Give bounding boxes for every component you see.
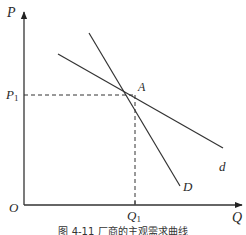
subjective-demand-curve-d <box>58 54 223 148</box>
market-share-demand-curve-D <box>89 33 180 186</box>
equilibrium-point-a-label: A <box>138 81 145 93</box>
price-p1-label: P1 <box>6 88 18 103</box>
quantity-q1-main: Q <box>127 208 136 223</box>
x-axis-label: Q <box>232 211 242 225</box>
figure-caption: 图 4-11 厂商的主观需求曲线 <box>0 226 246 235</box>
y-axis-label: P <box>7 6 16 20</box>
origin-label: O <box>9 201 18 214</box>
quantity-q1-label: Q1 <box>127 209 141 224</box>
curve-D-label: D <box>183 180 192 193</box>
demand-curve-diagram: P Q O P1 Q1 A d D 图 4-11 厂商的主观需求曲线 <box>0 0 246 235</box>
diagram-canvas <box>0 0 246 235</box>
curve-d-label: d <box>219 160 226 173</box>
price-p1-subscript: 1 <box>14 93 19 103</box>
price-p1-main: P <box>6 87 14 102</box>
quantity-q1-subscript: 1 <box>136 214 141 224</box>
